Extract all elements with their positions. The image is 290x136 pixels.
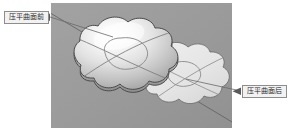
callout-after-flatten[interactable]: 压平曲面后 (242, 85, 287, 98)
figure-root: 压平曲面前 压平曲面后 (0, 0, 290, 136)
3d-modeling-viewport[interactable] (51, 3, 232, 128)
callout-before-label: 压平曲面前 (9, 14, 44, 21)
viewport-canvas (51, 3, 232, 128)
callout-after-label: 压平曲面后 (247, 88, 282, 95)
callout-before-flatten[interactable]: 压平曲面前 (4, 11, 49, 24)
leader-arrowhead-after (233, 88, 242, 96)
